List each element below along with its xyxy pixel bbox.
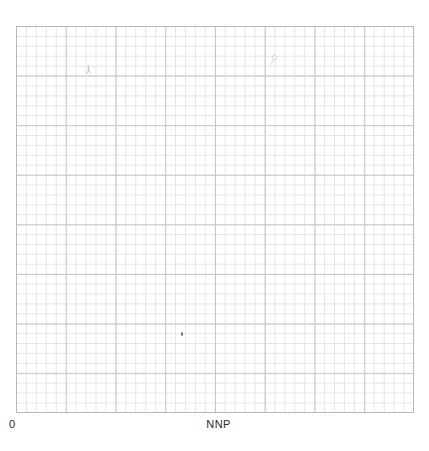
data-point xyxy=(181,332,183,336)
chart-root: 0 NNP xyxy=(0,0,429,451)
pencil-mark-icon xyxy=(85,65,92,74)
major-gridlines xyxy=(16,26,414,413)
plot-border xyxy=(16,26,414,413)
paper-wash-overlay xyxy=(16,26,414,413)
x-axis-label: NNP xyxy=(4,417,429,431)
minor-gridlines xyxy=(16,26,414,413)
plot-area xyxy=(16,26,414,413)
pencil-mark-icon xyxy=(269,54,279,65)
